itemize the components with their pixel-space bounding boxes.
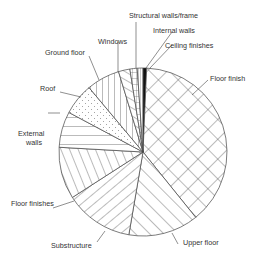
label-structural-walls-frame: Structural walls/frame xyxy=(129,12,198,20)
pie-slices xyxy=(59,68,227,236)
label-ground-floor: Ground floor xyxy=(45,49,85,57)
label-floor-finish: Floor finish xyxy=(210,75,245,83)
label-ceiling-finishes: Ceiling finishes xyxy=(165,42,213,50)
label-external-walls-line1: External xyxy=(18,130,44,138)
label-windows: Windows xyxy=(98,38,127,46)
label-external-walls-line2: walls xyxy=(26,139,42,147)
label-upper-floor: Upper floor xyxy=(183,239,219,247)
label-floor-finishes: Floor finishes xyxy=(11,200,54,208)
label-roof: Roof xyxy=(40,85,55,93)
label-internal-walls: Internal walls xyxy=(153,27,195,35)
label-substructure: Substructure xyxy=(51,242,92,250)
